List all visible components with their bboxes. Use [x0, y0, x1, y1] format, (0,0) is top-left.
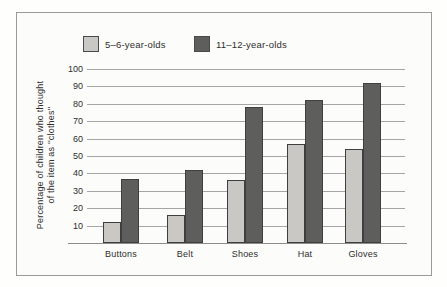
gridline-100: [87, 69, 405, 70]
bar-belt-older: [185, 170, 203, 243]
bar-shoes-older: [245, 107, 263, 243]
bar-belt-younger: [167, 215, 185, 243]
gridline-90: [87, 86, 405, 87]
bar-buttons-younger: [103, 222, 121, 243]
x-axis-line: [68, 243, 407, 244]
legend-item-older: 11–12-year-olds: [194, 36, 287, 52]
legend-label-younger: 5–6-year-olds: [105, 39, 166, 50]
bar-gloves-younger: [345, 149, 363, 243]
bar-hat-older: [305, 100, 323, 243]
x-category-label-shoes: Shoes: [213, 249, 277, 259]
y-tick-label-30: 30: [43, 186, 83, 196]
x-category-label-buttons: Buttons: [89, 249, 153, 259]
bar-buttons-older: [121, 179, 139, 243]
y-tick-label-50: 50: [43, 151, 83, 161]
x-category-label-gloves: Gloves: [331, 249, 395, 259]
legend-swatch-older: [194, 36, 210, 52]
y-tick-label-20: 20: [43, 203, 83, 213]
legend-item-younger: 5–6-year-olds: [83, 36, 166, 52]
y-tick-label-10: 10: [43, 221, 83, 231]
chart-figure: 5–6-year-olds 11–12-year-olds Percentage…: [16, 12, 432, 276]
y-tick-label-90: 90: [43, 81, 83, 91]
bar-shoes-younger: [227, 180, 245, 243]
y-tick-label-80: 80: [43, 99, 83, 109]
y-tick-label-60: 60: [43, 134, 83, 144]
legend-swatch-younger: [83, 36, 99, 52]
gridline-80: [87, 104, 405, 105]
y-tick-label-70: 70: [43, 116, 83, 126]
bar-gloves-older: [363, 83, 381, 243]
x-category-label-hat: Hat: [273, 249, 337, 259]
bar-hat-younger: [287, 144, 305, 243]
y-tick-label-100: 100: [43, 64, 83, 74]
x-category-label-belt: Belt: [153, 249, 217, 259]
legend-label-older: 11–12-year-olds: [216, 39, 287, 50]
y-tick-label-40: 40: [43, 168, 83, 178]
